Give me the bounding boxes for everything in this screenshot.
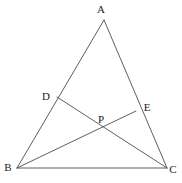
point-label-d: D: [42, 91, 50, 102]
geometry-canvas: [0, 0, 182, 183]
segment-be: [17, 111, 136, 168]
point-label-p: P: [98, 114, 104, 125]
segment-ac: [104, 20, 167, 168]
segment-ab: [17, 20, 104, 168]
vertex-label-a: A: [97, 4, 105, 15]
vertex-label-c: C: [169, 164, 176, 175]
geometry-figure: A B C D E P: [0, 0, 182, 183]
point-label-e: E: [144, 102, 151, 113]
vertex-label-b: B: [4, 162, 11, 173]
